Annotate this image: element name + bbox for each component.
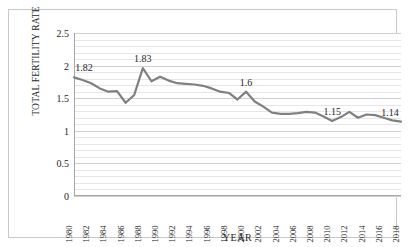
y-axis-tick-label: 2.5 [57, 28, 70, 39]
x-axis-tick-labels: 1980198219841986198819901992199419961998… [74, 198, 401, 234]
x-axis-tick-label: 1980 [64, 226, 74, 243]
y-axis-tick-label: 0 [64, 191, 69, 202]
y-axis-tick-label: 1 [64, 125, 69, 136]
data-label: 1.83 [134, 53, 152, 64]
line-series [74, 33, 401, 196]
y-axis-tick-label: 1.5 [57, 93, 70, 104]
data-label: 1.82 [75, 62, 93, 73]
y-axis-title: TOTAL FERTILITY RATE [31, 0, 41, 136]
y-axis-tick-labels: 2.521.510.50 [43, 33, 69, 196]
chart-screenshot: TOTAL FERTILITY RATE 2.521.510.50 1.821.… [0, 0, 411, 247]
data-label: 1.15 [323, 106, 341, 117]
data-label: 1.6 [240, 77, 253, 88]
plot-area: 1.821.831.61.151.14 [74, 33, 401, 196]
y-axis-tick-label: 0.5 [57, 158, 70, 169]
gridline-major [74, 196, 401, 197]
chart-container: TOTAL FERTILITY RATE 2.521.510.50 1.821.… [8, 9, 397, 238]
y-axis-tick-label: 2 [64, 60, 69, 71]
data-label: 1.14 [381, 107, 399, 118]
fertility-rate-line [74, 68, 401, 121]
x-axis-title: YEAR [74, 232, 401, 243]
